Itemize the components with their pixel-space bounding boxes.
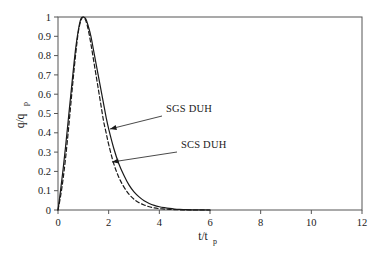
y-tick-label: 0.3 (38, 147, 51, 158)
annotation-label: SGS DUH (166, 103, 212, 114)
x-tick-label: 8 (258, 217, 263, 228)
x-axis-title-subscript: p (213, 237, 217, 246)
y-tick-label: 0.4 (38, 127, 52, 138)
y-tick-label: 0.7 (38, 70, 51, 81)
x-tick-label: 2 (106, 217, 111, 228)
annotation-label: SCS DUH (181, 139, 227, 150)
y-tick-label: 0.5 (38, 108, 51, 119)
y-tick-label: 0.9 (38, 31, 51, 42)
y-axis-title-subscript: p (21, 102, 30, 106)
x-tick-label: 4 (157, 217, 163, 228)
y-tick-label: 0.1 (38, 185, 51, 196)
x-axis: 024681012 (55, 210, 367, 228)
chart-figure: 00.10.20.30.40.50.60.70.80.91 024681012 … (0, 0, 385, 254)
y-tick-label: 0.6 (38, 89, 51, 100)
x-tick-label: 12 (357, 217, 368, 228)
y-tick-label: 0.8 (38, 50, 51, 61)
y-tick-label: 0 (46, 205, 51, 216)
y-tick-label: 1 (46, 12, 51, 23)
y-axis: 00.10.20.30.40.50.60.70.80.91 (38, 12, 58, 216)
x-axis-title-main: t/t (198, 230, 208, 242)
y-axis-title: q/q p (14, 102, 30, 128)
x-axis-title: t/t p (198, 230, 217, 246)
x-tick-label: 6 (207, 217, 212, 228)
y-tick-label: 0.2 (38, 166, 51, 177)
x-tick-label: 0 (55, 217, 60, 228)
duh-line-chart: 00.10.20.30.40.50.60.70.80.91 024681012 … (0, 0, 385, 254)
y-axis-title-main: q/q (14, 113, 27, 128)
x-tick-label: 10 (306, 217, 317, 228)
